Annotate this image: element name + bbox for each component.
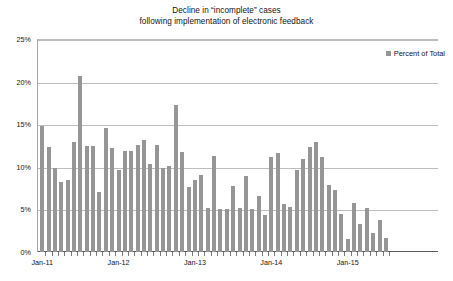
x-axis-tick bbox=[122, 252, 123, 256]
x-axis-tick bbox=[71, 252, 72, 256]
bar bbox=[339, 214, 343, 252]
x-axis-tick bbox=[160, 252, 161, 256]
x-axis-tick bbox=[313, 252, 314, 256]
x-axis-tick bbox=[134, 252, 135, 256]
x-axis-tick bbox=[192, 252, 193, 256]
bar bbox=[180, 152, 184, 252]
bar bbox=[155, 145, 159, 252]
x-axis-tick bbox=[281, 252, 282, 256]
x-axis-tick bbox=[344, 252, 345, 256]
x-axis-tick bbox=[332, 252, 333, 256]
x-axis-tick bbox=[363, 252, 364, 256]
x-axis-tick-label: Jan-11 bbox=[31, 258, 52, 267]
x-axis-tick bbox=[223, 252, 224, 256]
bar bbox=[384, 238, 388, 252]
x-axis-tick bbox=[109, 252, 110, 256]
bar bbox=[333, 190, 337, 252]
bar bbox=[110, 148, 114, 252]
x-axis-tick bbox=[172, 252, 173, 256]
bar bbox=[371, 233, 375, 252]
bar bbox=[288, 207, 292, 252]
x-axis-tick bbox=[90, 252, 91, 256]
x-axis-tick bbox=[370, 252, 371, 256]
bar bbox=[308, 147, 312, 252]
bar bbox=[352, 203, 356, 252]
x-axis-tick bbox=[287, 252, 288, 256]
x-axis-tick bbox=[306, 252, 307, 256]
x-axis-tick bbox=[185, 252, 186, 256]
bar bbox=[66, 180, 70, 252]
bar bbox=[231, 186, 235, 252]
bar bbox=[276, 153, 280, 252]
x-axis-tick bbox=[52, 252, 53, 256]
bar bbox=[301, 159, 305, 252]
y-axis-tick-label: 20% bbox=[17, 77, 31, 86]
x-axis-tick bbox=[211, 252, 212, 256]
bar bbox=[161, 168, 165, 252]
x-axis-tick bbox=[300, 252, 301, 256]
x-axis-tick bbox=[338, 252, 339, 256]
bar bbox=[174, 105, 178, 252]
y-axis-tick-label: 25% bbox=[17, 35, 31, 44]
bar bbox=[327, 185, 331, 252]
x-axis-tick bbox=[389, 252, 390, 256]
bar bbox=[218, 209, 222, 252]
bar bbox=[346, 239, 350, 252]
x-axis-tick bbox=[230, 252, 231, 256]
bar bbox=[47, 147, 51, 252]
x-axis-tick bbox=[255, 252, 256, 256]
x-axis-tick-label: Jan-15 bbox=[337, 258, 359, 267]
x-axis-tick bbox=[204, 252, 205, 256]
bar bbox=[365, 208, 369, 252]
x-axis-tick bbox=[96, 252, 97, 256]
bar bbox=[53, 168, 57, 252]
y-axis-tick-label: 0% bbox=[21, 248, 31, 257]
x-axis-tick bbox=[166, 252, 167, 256]
y-axis-tick-label: 15% bbox=[17, 120, 31, 129]
x-axis-tick-label: Jan-14 bbox=[260, 258, 282, 267]
x-axis-tick bbox=[147, 252, 148, 256]
bar bbox=[148, 164, 152, 252]
chart-container: Decline in “incomplete” cases following … bbox=[0, 0, 453, 281]
x-axis-tick bbox=[64, 252, 65, 256]
x-axis-tick bbox=[262, 252, 263, 256]
chart-title-line-1: Decline in “incomplete” cases bbox=[0, 5, 453, 16]
bar bbox=[378, 220, 382, 252]
bar bbox=[320, 157, 324, 252]
x-axis-labels: Jan-11Jan-12Jan-13Jan-14Jan-15 bbox=[37, 258, 438, 272]
x-axis-tick bbox=[153, 252, 154, 256]
bar bbox=[117, 170, 121, 252]
bar bbox=[59, 182, 63, 252]
x-axis-tick-label: Jan-13 bbox=[184, 258, 206, 267]
bar bbox=[225, 209, 229, 252]
x-axis-tick bbox=[268, 252, 269, 256]
bar bbox=[91, 146, 95, 253]
bars-layer bbox=[37, 39, 438, 252]
bar bbox=[104, 128, 108, 252]
bar bbox=[167, 166, 171, 252]
bar bbox=[199, 175, 203, 252]
x-axis-tick bbox=[376, 252, 377, 256]
x-axis-tick bbox=[357, 252, 358, 256]
x-axis-tick bbox=[236, 252, 237, 256]
y-axis-tick-label: 5% bbox=[21, 205, 31, 214]
x-axis-tick bbox=[45, 252, 46, 256]
bar bbox=[263, 215, 267, 252]
x-axis-tick bbox=[274, 252, 275, 256]
bar bbox=[40, 126, 44, 252]
chart-title-line-2: following implementation of electronic f… bbox=[0, 16, 453, 27]
bar bbox=[85, 146, 89, 253]
x-axis-tick bbox=[198, 252, 199, 256]
bar bbox=[193, 180, 197, 252]
x-axis-tick-label: Jan-12 bbox=[108, 258, 130, 267]
x-axis-tick bbox=[102, 252, 103, 256]
x-axis-tick bbox=[115, 252, 116, 256]
x-axis-tick bbox=[83, 252, 84, 256]
bar bbox=[123, 151, 127, 252]
bar bbox=[72, 142, 76, 252]
x-axis-tick bbox=[383, 252, 384, 256]
x-axis-tick bbox=[179, 252, 180, 256]
bar bbox=[244, 176, 248, 252]
bar bbox=[269, 157, 273, 252]
x-axis-tick bbox=[249, 252, 250, 256]
